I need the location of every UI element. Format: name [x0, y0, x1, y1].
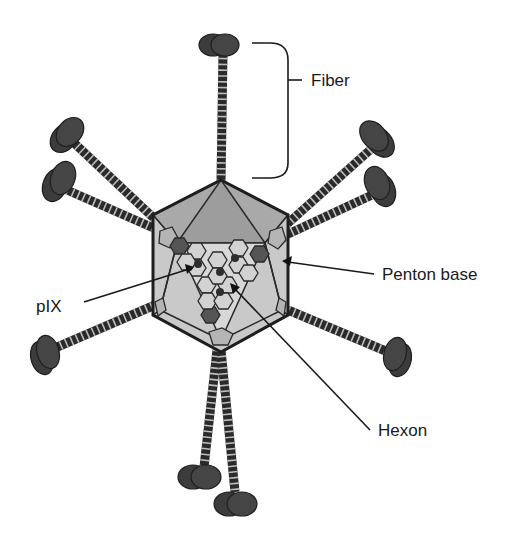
hexon-dark-right — [250, 246, 269, 262]
fiber-top — [199, 34, 239, 182]
hexon-dark-left — [170, 238, 189, 254]
capsid — [153, 180, 288, 352]
penton-base-annotation: Penton base — [282, 256, 477, 284]
pix-label: pIX — [36, 297, 62, 316]
fiber-bottom-1 — [178, 350, 221, 489]
fiber-bottom-2 — [214, 350, 257, 516]
fiber-label: Fiber — [311, 71, 350, 90]
fiber-annotation: Fiber — [252, 43, 350, 178]
penton-base-label: Penton base — [382, 265, 477, 284]
adenovirus-diagram: Fiber Penton base pIX Hexon — [0, 0, 532, 543]
pix-dot — [231, 254, 239, 262]
pix-dot — [216, 288, 224, 296]
fiber-bracket — [252, 43, 288, 178]
pix-dot — [194, 260, 202, 268]
pix-dot — [216, 268, 224, 276]
hexon-label: Hexon — [378, 421, 427, 440]
fiber-lower-right — [288, 310, 415, 379]
